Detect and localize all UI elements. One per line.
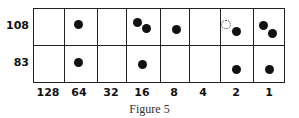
dot-83-1 bbox=[265, 65, 274, 74]
dot-83-16 bbox=[138, 60, 147, 69]
figure-caption: Figure 5 bbox=[0, 102, 299, 117]
row-label-83: 83 bbox=[14, 56, 29, 69]
column-label-1: 1 bbox=[254, 86, 284, 99]
binary-place-value-grid bbox=[33, 8, 285, 83]
removed-dot-marker bbox=[221, 20, 231, 29]
dot-83-2 bbox=[232, 65, 241, 74]
dot-108-16b bbox=[142, 24, 151, 33]
dot-108-2 bbox=[232, 27, 241, 36]
column-label-8: 8 bbox=[159, 86, 189, 99]
row-label-108: 108 bbox=[6, 19, 29, 32]
column-label-4: 4 bbox=[188, 86, 218, 99]
dot-108-64 bbox=[74, 20, 83, 29]
dot-108-1b bbox=[268, 29, 277, 38]
column-label-32: 32 bbox=[96, 86, 126, 99]
dot-108-1a bbox=[259, 21, 268, 30]
column-label-16: 16 bbox=[127, 86, 157, 99]
dot-108-8 bbox=[172, 25, 181, 34]
row-divider bbox=[34, 45, 284, 46]
column-label-128: 128 bbox=[33, 86, 63, 99]
dot-83-64 bbox=[74, 58, 83, 67]
dot-108-16a bbox=[133, 18, 142, 27]
column-label-2: 2 bbox=[221, 86, 251, 99]
column-label-64: 64 bbox=[64, 86, 94, 99]
